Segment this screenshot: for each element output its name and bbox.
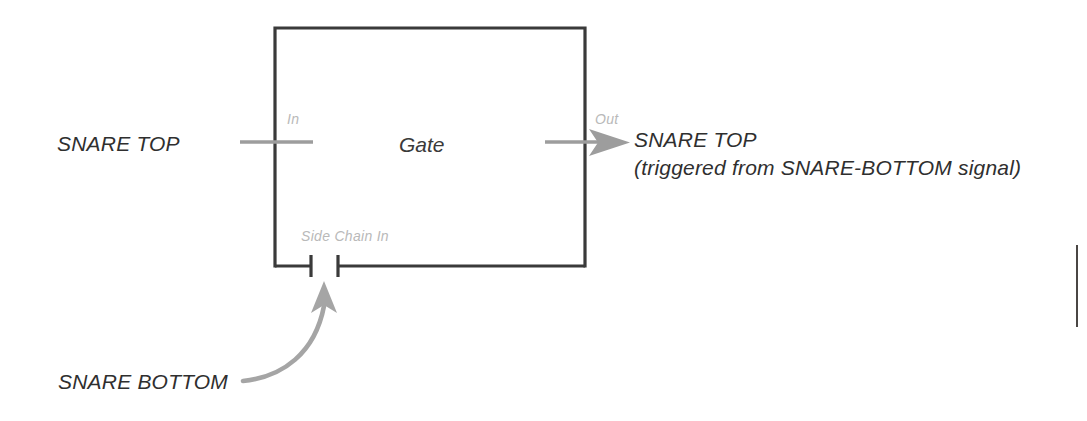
port-label-out: Out xyxy=(595,110,618,129)
curved-arrow-up-icon-tail xyxy=(243,306,324,381)
sidechain-signal-label: SNARE BOTTOM xyxy=(58,368,228,396)
output-signal-name: SNARE TOP xyxy=(634,126,1021,154)
port-label-in: In xyxy=(287,110,299,129)
output-signal-note: (triggered from SNARE-BOTTOM signal) xyxy=(634,154,1021,182)
output-signal-label-group: SNARE TOP (triggered from SNARE-BOTTOM s… xyxy=(634,126,1021,183)
signal-flow-diagram xyxy=(0,0,1087,421)
input-signal-label: SNARE TOP xyxy=(57,130,180,158)
port-label-side-chain-in: Side Chain In xyxy=(301,227,389,246)
diagram-canvas: SNARE TOP In Gate Out SNARE TOP (trigger… xyxy=(0,0,1087,421)
output-signal-arrow xyxy=(545,129,630,156)
sidechain-curved-arrow xyxy=(243,281,337,381)
gate-block-label: Gate xyxy=(399,131,445,159)
